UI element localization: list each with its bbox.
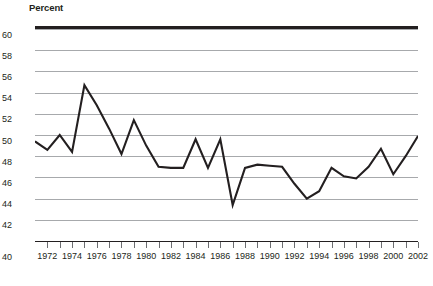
x-tick-1978: [121, 242, 122, 248]
y-axis-title: Percent: [29, 2, 63, 13]
x-tick-1972: [47, 242, 48, 248]
x-tick-1989: [257, 242, 258, 248]
x-tick-2001: [406, 242, 407, 248]
data-series-line: [35, 29, 418, 241]
x-tick-1988: [245, 242, 246, 248]
x-tick-1995: [332, 242, 333, 248]
y-tick-label-60: 60: [2, 31, 28, 40]
y-tick-label-48: 48: [2, 158, 28, 167]
x-tick-1994: [319, 242, 320, 248]
y-tick-label-46: 46: [2, 179, 28, 188]
x-axis-ticks: [35, 242, 418, 249]
x-tick-1979: [134, 242, 135, 248]
x-tick-1976: [97, 242, 98, 248]
x-tick-1974: [72, 242, 73, 248]
x-tick-1973: [60, 242, 61, 248]
x-tick-1999: [381, 242, 382, 248]
x-tick-1993: [307, 242, 308, 248]
x-tick-1984: [196, 242, 197, 248]
x-tick-1996: [344, 242, 345, 248]
x-tick-1997: [356, 242, 357, 248]
y-tick-label-54: 54: [2, 94, 28, 103]
x-tick-1975: [84, 242, 85, 248]
y-tick-label-52: 52: [2, 115, 28, 124]
x-tick-1991: [282, 242, 283, 248]
y-tick-label-58: 58: [2, 52, 28, 61]
x-tick-1987: [233, 242, 234, 248]
x-tick-2002: [418, 242, 419, 248]
x-tick-label-2002: 2002: [403, 251, 433, 261]
x-tick-1980: [146, 242, 147, 248]
x-tick-1990: [270, 242, 271, 248]
x-tick-1986: [220, 242, 221, 248]
x-tick-1982: [171, 242, 172, 248]
x-tick-1998: [369, 242, 370, 248]
x-tick-1983: [183, 242, 184, 248]
y-tick-label-44: 44: [2, 200, 28, 209]
x-tick-1985: [208, 242, 209, 248]
x-tick-1977: [109, 242, 110, 248]
y-tick-label-56: 56: [2, 73, 28, 82]
x-tick-1992: [294, 242, 295, 248]
x-tick-1981: [159, 242, 160, 248]
x-tick-2000: [393, 242, 394, 248]
y-tick-label-42: 42: [2, 221, 28, 230]
y-tick-label-50: 50: [2, 137, 28, 146]
x-axis-labels: 1972197419761978198019821984198619881990…: [0, 251, 428, 265]
